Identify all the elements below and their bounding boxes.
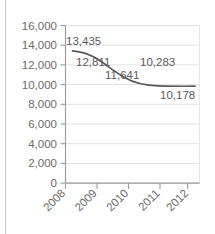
y-tick-label: 12,000 xyxy=(22,59,57,71)
y-tick-label: 2,000 xyxy=(28,157,57,169)
data-label-2009: 12,811 xyxy=(76,56,110,68)
data-label-2011: 10,283 xyxy=(140,56,175,68)
line-chart: 16,000 14,000 12,000 10,000 8,000 6,000 … xyxy=(0,0,215,234)
y-tick-label: 6,000 xyxy=(28,118,57,130)
y-tick-label: 8,000 xyxy=(28,98,57,110)
x-tick-label: 2009 xyxy=(72,187,99,214)
y-tick-label: 10,000 xyxy=(22,79,57,91)
y-tick-label: 14,000 xyxy=(22,39,57,51)
y-tick-label: 16,000 xyxy=(22,20,57,32)
y-axis-ticks xyxy=(61,26,66,184)
data-label-2012: 10,178 xyxy=(160,89,195,101)
y-axis-tick-labels: 16,000 14,000 12,000 10,000 8,000 6,000 … xyxy=(22,20,57,190)
x-axis-ticks xyxy=(66,183,188,189)
data-label-2008: 13,435 xyxy=(66,35,101,47)
x-tick-label: 2012 xyxy=(164,187,191,214)
y-tick-label: 0 xyxy=(51,177,57,189)
x-tick-label: 2011 xyxy=(136,187,162,213)
x-tick-label: 2008 xyxy=(41,187,68,214)
x-tick-label: 2010 xyxy=(104,187,131,214)
chart-canvas: 16,000 14,000 12,000 10,000 8,000 6,000 … xyxy=(0,0,215,234)
x-axis-tick-labels: 2008 2009 2010 2011 2012 xyxy=(41,187,191,214)
data-label-2010: 11,641 xyxy=(105,69,139,81)
y-tick-label: 4,000 xyxy=(28,138,57,150)
